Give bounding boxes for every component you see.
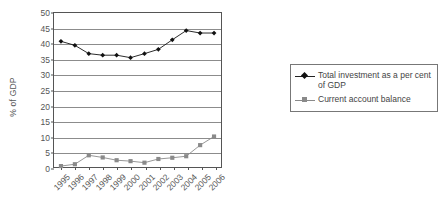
y-tick-label: 10 bbox=[41, 133, 50, 143]
data-point bbox=[115, 158, 119, 162]
y-tick-label: 15 bbox=[41, 117, 50, 127]
legend-item-label: Total investment as a per cent of GDP bbox=[318, 70, 432, 90]
x-tick-mark bbox=[131, 167, 132, 170]
data-point bbox=[198, 143, 202, 147]
data-point bbox=[142, 51, 147, 56]
chart-figure: % of GDP 05101520253035404550 1995199619… bbox=[0, 0, 445, 205]
data-point bbox=[184, 154, 188, 158]
data-point bbox=[156, 157, 160, 161]
legend-item[interactable]: Current account balance bbox=[295, 94, 432, 105]
data-point bbox=[59, 39, 64, 44]
y-tick-label: 5 bbox=[45, 148, 50, 158]
x-tick-mark bbox=[146, 167, 147, 170]
x-tick-mark bbox=[75, 167, 76, 170]
data-point bbox=[184, 28, 189, 33]
diamond-marker-icon bbox=[295, 71, 315, 81]
legend-item[interactable]: Total investment as a per cent of GDP bbox=[295, 70, 432, 90]
y-tick-label: 0 bbox=[45, 164, 50, 174]
plot-area: 05101520253035404550 1995199619971998199… bbox=[53, 12, 222, 168]
data-point bbox=[86, 51, 91, 56]
data-point bbox=[59, 164, 63, 168]
data-point bbox=[100, 53, 105, 58]
y-tick-label: 40 bbox=[41, 39, 50, 49]
data-point bbox=[128, 55, 133, 60]
data-point bbox=[142, 161, 146, 165]
x-tick-mark bbox=[174, 167, 175, 170]
y-axis-title: % of GDP bbox=[8, 57, 18, 137]
x-tick-mark bbox=[160, 167, 161, 170]
legend-item-label: Current account balance bbox=[318, 94, 411, 104]
data-point bbox=[128, 159, 132, 163]
data-point bbox=[170, 156, 174, 160]
data-point bbox=[73, 162, 77, 166]
data-point bbox=[212, 134, 216, 138]
x-tick-mark bbox=[89, 167, 90, 170]
data-point bbox=[87, 153, 91, 157]
series-line bbox=[61, 137, 214, 167]
x-tick-mark bbox=[202, 167, 203, 170]
y-tick-label: 20 bbox=[41, 102, 50, 112]
square-marker-icon bbox=[295, 95, 315, 105]
y-tick-label: 30 bbox=[41, 70, 50, 80]
data-point bbox=[114, 53, 119, 58]
data-point bbox=[212, 31, 217, 36]
series-line bbox=[61, 31, 214, 58]
x-tick-mark bbox=[216, 167, 217, 170]
data-point bbox=[198, 31, 203, 36]
data-point bbox=[73, 43, 78, 48]
y-tick-mark bbox=[51, 169, 54, 170]
series-layer bbox=[54, 13, 221, 167]
y-tick-label: 25 bbox=[41, 86, 50, 96]
chart-legend: Total investment as a per cent of GDPCur… bbox=[290, 64, 438, 112]
data-point bbox=[101, 155, 105, 159]
x-tick-mark bbox=[117, 167, 118, 170]
x-tick-mark bbox=[103, 167, 104, 170]
y-tick-label: 35 bbox=[41, 55, 50, 65]
y-tick-label: 50 bbox=[41, 8, 50, 18]
x-tick-mark bbox=[188, 167, 189, 170]
y-tick-label: 45 bbox=[41, 24, 50, 34]
